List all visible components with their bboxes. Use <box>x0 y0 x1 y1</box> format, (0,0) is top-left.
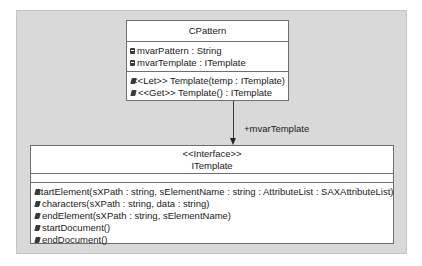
operation-icon <box>131 89 137 97</box>
operation-icon <box>35 224 41 232</box>
operation-item[interactable]: endDocument() <box>35 234 390 246</box>
operations-compartment: <<Let>> Template(temp : ITemplate) <<Get… <box>127 72 288 101</box>
class-itemplate[interactable]: <<Interface>> ITemplate startElement(sXP… <box>30 145 394 244</box>
attribute-text: mvarPattern : String <box>137 45 221 57</box>
class-name: ITemplate <box>31 160 393 172</box>
operation-text: startElement(sXPath : string, sElementNa… <box>36 186 393 198</box>
class-cpattern[interactable]: CPattern mvarPattern : String mvarTempla… <box>126 20 289 101</box>
association-label: +mvarTemplate <box>244 123 309 135</box>
operation-text: characters(sXPath : string, data : strin… <box>42 198 209 210</box>
attribute-item[interactable]: mvarTemplate : ITemplate <box>130 57 285 69</box>
operation-text: <<Let>> Template(temp : ITemplate) <box>132 75 285 87</box>
operation-text: endDocument() <box>42 234 107 246</box>
operation-item[interactable]: endElement(sXPath : string, sElementName… <box>35 210 390 222</box>
class-name-compartment: <<Interface>> ITemplate <box>31 146 393 174</box>
operation-item[interactable]: <<Get>> Template() : ITemplate <box>131 87 285 99</box>
operation-icon <box>35 236 41 244</box>
attributes-compartment <box>31 174 393 183</box>
attribute-item[interactable]: mvarPattern : String <box>130 45 285 57</box>
association-line[interactable] <box>233 101 234 139</box>
operation-icon <box>35 212 41 220</box>
operation-item[interactable]: startDocument() <box>35 222 390 234</box>
operation-icon <box>35 200 41 208</box>
operation-text: startDocument() <box>42 222 110 234</box>
operation-text: <<Get>> Template() : ITemplate <box>138 87 272 99</box>
operation-text: endElement(sXPath : string, sElementName… <box>42 210 231 222</box>
operations-compartment: startElement(sXPath : string, sElementNa… <box>31 183 393 248</box>
attribute-text: mvarTemplate : ITemplate <box>137 57 246 69</box>
attribute-icon <box>130 47 136 55</box>
class-stereotype: <<Interface>> <box>31 148 393 160</box>
class-name-compartment: CPattern <box>127 21 288 42</box>
attribute-icon <box>130 59 136 67</box>
class-name: CPattern <box>189 25 227 36</box>
attributes-compartment: mvarPattern : String mvarTemplate : ITem… <box>127 42 288 72</box>
arrowhead-icon <box>230 138 236 145</box>
operation-item[interactable]: characters(sXPath : string, data : strin… <box>35 198 390 210</box>
operation-item[interactable]: <<Let>> Template(temp : ITemplate) <box>131 75 285 87</box>
operation-item[interactable]: startElement(sXPath : string, sElementNa… <box>35 186 390 198</box>
